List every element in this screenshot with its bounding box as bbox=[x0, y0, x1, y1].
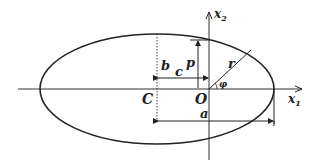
ellipse-diagram: x2 x1 b p c r φ C O a bbox=[0, 0, 319, 163]
label-phi: φ bbox=[219, 79, 228, 89]
label-p: p bbox=[186, 55, 195, 70]
label-r: r bbox=[228, 56, 236, 71]
x1-label: x1 bbox=[287, 92, 301, 108]
label-c: c bbox=[175, 64, 183, 79]
label-C: C bbox=[142, 91, 153, 107]
x2-label: x2 bbox=[213, 7, 227, 23]
label-a: a bbox=[200, 106, 208, 121]
angle-arc bbox=[215, 83, 217, 89]
label-b: b bbox=[161, 58, 170, 73]
label-O: O bbox=[195, 91, 208, 107]
